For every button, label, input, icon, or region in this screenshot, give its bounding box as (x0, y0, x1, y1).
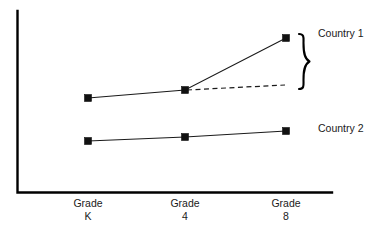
x-tick-label-grade-4-top: Grade (150, 197, 220, 210)
series-label-country-1: Country 1 (318, 27, 364, 39)
data-point-country-1-grade-k (85, 95, 92, 102)
x-tick-label-grade-8-top: Grade (251, 197, 321, 210)
x-tick-label-grade-8-bottom: 8 (251, 210, 321, 223)
data-point-country-1-grade-4 (182, 87, 189, 94)
data-point-country-2-grade-4 (182, 134, 189, 141)
x-tick-label-grade-k-top: Grade (53, 197, 123, 210)
x-tick-label-grade-k-bottom: K (53, 210, 123, 223)
x-tick-label-grade-4-bottom: 4 (150, 210, 220, 223)
data-point-country-2-grade-k (85, 138, 92, 145)
x-tick-label-grade-8: Grade 8 (251, 197, 321, 222)
data-point-country-1-grade-8 (283, 35, 290, 42)
x-tick-label-grade-4: Grade 4 (150, 197, 220, 222)
chart-container: Country 1 Country 2 Grade K Grade 4 Grad… (0, 0, 374, 233)
data-point-country-2-grade-8 (283, 128, 290, 135)
x-tick-label-grade-k: Grade K (53, 197, 123, 222)
gap-brace-icon (299, 34, 310, 89)
projection-line-country-1 (187, 85, 285, 90)
series-label-country-2: Country 2 (318, 122, 364, 134)
